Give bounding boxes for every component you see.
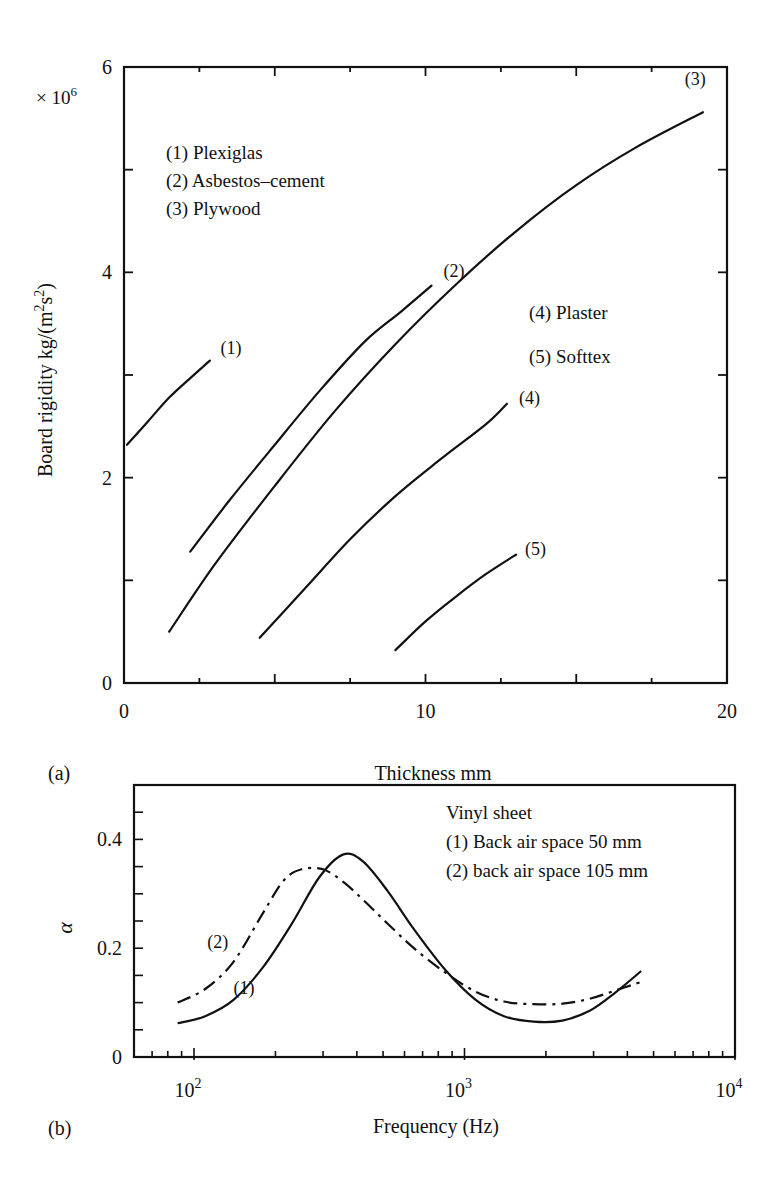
legend-entry: (3) Plywood	[166, 198, 261, 220]
x-tick-label: 10	[416, 700, 436, 722]
x-tick-label: 0	[119, 700, 129, 722]
y-axis-label-b: α	[52, 922, 77, 934]
series-label-2: (2)	[207, 932, 228, 953]
x-axis-label-b: Frequency (Hz)	[373, 1115, 499, 1138]
y-tick-label: 0	[102, 672, 112, 694]
panel-tag-b: (b)	[48, 1117, 71, 1140]
series-line-2	[190, 286, 431, 552]
legend-entry: (4) Plaster	[529, 302, 608, 324]
y-tick-label: 2	[102, 467, 112, 489]
y-axis-label-a: Board rigidity kg/(m2s2)	[32, 283, 57, 477]
series-label-3: (3)	[685, 69, 706, 90]
legend-entry: (1) Plexiglas	[166, 142, 263, 164]
y-tick-label: 6	[102, 56, 112, 78]
y-tick-label: 4	[102, 261, 112, 283]
x-tick-label: 20	[717, 700, 737, 722]
panel-tag-a: (a)	[48, 762, 70, 785]
legend-entry: (5) Softtex	[529, 346, 611, 368]
y-tick-label: 0.4	[97, 828, 122, 850]
legend-right-a: (4) Plaster(5) Softtex	[529, 302, 611, 368]
series-label-1: (1)	[234, 978, 255, 999]
legend-left-a: (1) Plexiglas(2) Asbestos–cement(3) Plyw…	[166, 142, 326, 220]
chart-panel-b: 10210310400.20.4 (1)(2) Vinyl sheet(1) B…	[48, 785, 743, 1140]
series-label-4: (4)	[519, 388, 540, 409]
x-tick-label: 103	[445, 1076, 472, 1101]
series-label-1: (1)	[220, 338, 241, 359]
legend-entry: (2) back air space 105 mm	[446, 860, 648, 882]
x-tick-label: 104	[716, 1076, 743, 1101]
figure: 010200246 (1)(2)(3)(4)(5) (1) Plexiglas(…	[0, 0, 783, 1186]
plot-frame-b	[134, 785, 735, 1057]
x-tick-label: 102	[175, 1076, 202, 1101]
series-label-5: (5)	[525, 539, 546, 560]
series-line-1	[127, 361, 210, 445]
series-line-5	[395, 555, 516, 650]
legend-b: Vinyl sheet(1) Back air space 50 mm(2) b…	[446, 802, 648, 882]
legend-entry: (2) Asbestos–cement	[166, 170, 326, 192]
series-line-4	[260, 404, 507, 638]
legend-entry: Vinyl sheet	[446, 802, 533, 823]
y-multiplier: × 106	[36, 84, 77, 108]
chart-panel-a: 010200246 (1)(2)(3)(4)(5) (1) Plexiglas(…	[32, 56, 737, 785]
y-tick-label: 0	[112, 1046, 122, 1068]
x-axis-label-a: Thickness mm	[374, 762, 492, 784]
y-tick-label: 0.2	[97, 937, 122, 959]
legend-entry: (1) Back air space 50 mm	[446, 831, 642, 853]
